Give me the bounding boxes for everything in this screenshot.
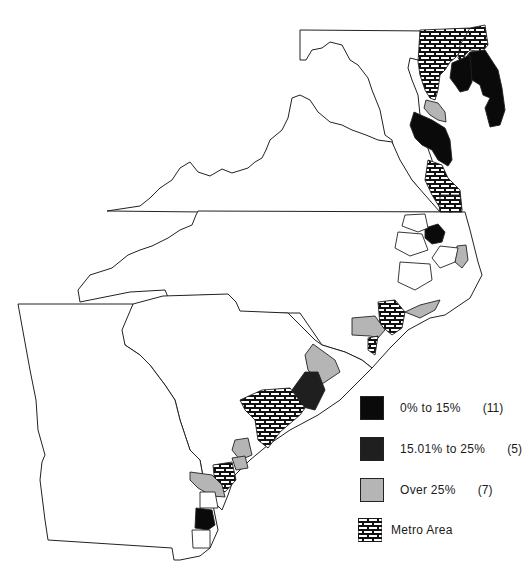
legend-item-metro: Metro Area: [358, 517, 453, 543]
brick-pattern-icon: [358, 518, 382, 542]
legend-item-15-25: 15.01% to 25% (5): [360, 436, 522, 462]
swatch-dark: [360, 437, 384, 461]
legend-count: (11): [483, 401, 503, 415]
legend-item-over-25: Over 25% (7): [360, 477, 492, 503]
legend-label: 0% to 15%: [400, 401, 461, 415]
county-black-ga: [195, 508, 215, 530]
legend-label: Metro Area: [391, 523, 453, 537]
county-metro-hampton: [440, 195, 462, 212]
county-black-chesapeake: [450, 55, 472, 92]
legend-item-0-15: 0% to 15% (11): [360, 395, 503, 421]
legend-count: (7): [478, 483, 493, 497]
swatch-black: [360, 396, 384, 420]
county-white-ga-1: [192, 530, 210, 548]
county-white-ga-2: [200, 492, 218, 508]
legend-label: 15.01% to 25%: [400, 442, 485, 456]
legend-count: (5): [507, 442, 522, 456]
swatch-gray: [360, 478, 384, 502]
legend-label: Over 25%: [400, 483, 456, 497]
